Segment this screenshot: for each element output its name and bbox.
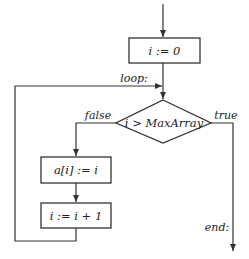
- assign-node: a[i] := i: [41, 157, 111, 183]
- condition-label: i > MaxArray: [125, 116, 204, 130]
- true-label: true: [214, 109, 238, 122]
- increment-node: i := i + 1: [41, 203, 111, 228]
- increment-label: i := i + 1: [50, 209, 102, 223]
- loop-label: loop:: [120, 72, 148, 85]
- end-label: end:: [205, 221, 229, 234]
- init-node: i := 0: [129, 38, 200, 63]
- flowchart-canvas: i := 0 loop: i > MaxArray false true end…: [0, 0, 249, 259]
- init-label: i := 0: [149, 44, 181, 58]
- false-label: false: [84, 109, 112, 122]
- condition-node: i > MaxArray: [116, 100, 211, 143]
- false-edge: [76, 123, 116, 156]
- assign-label: a[i] := i: [54, 163, 98, 177]
